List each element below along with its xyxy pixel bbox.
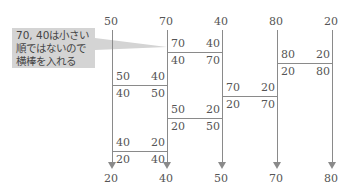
- vertical-line-2: [167, 30, 168, 163]
- swap-5-after-right: 50: [206, 121, 220, 133]
- bottom-value-2: 40: [159, 173, 173, 185]
- swap-2-after-left: 20: [281, 66, 295, 78]
- arrow-down-icon: [218, 162, 226, 169]
- top-value-1: 50: [104, 16, 118, 28]
- vertical-line-5: [332, 30, 333, 163]
- bottom-value-4: 70: [269, 173, 283, 185]
- swap-2-after-right: 80: [316, 66, 330, 78]
- top-value-4: 80: [269, 16, 283, 28]
- swap-2-before-left: 80: [281, 49, 295, 61]
- swap-5-before-right: 20: [206, 104, 220, 116]
- arrow-down-icon: [108, 162, 116, 169]
- swap-5-before-left: 50: [171, 104, 185, 116]
- vertical-line-4: [277, 30, 278, 163]
- swap-4-before-right: 20: [261, 82, 275, 94]
- top-value-2: 70: [159, 16, 173, 28]
- swap-2-before-right: 20: [316, 49, 330, 61]
- arrow-down-icon: [328, 162, 336, 169]
- swap-3-before-left: 50: [116, 71, 130, 83]
- bottom-value-5: 80: [324, 173, 338, 185]
- swap-3-after-right: 50: [151, 88, 165, 100]
- arrow-down-icon: [273, 162, 281, 169]
- callout-line-2: 順ではないので: [16, 42, 95, 55]
- swap-bar-6: [112, 151, 167, 152]
- swap-bar-4: [222, 96, 277, 97]
- top-value-5: 20: [324, 16, 338, 28]
- callout-box: 70, 40は小さい 順ではないので 横棒を入れる: [12, 28, 95, 68]
- swap-bar-5: [167, 118, 222, 119]
- swap-1-after-right: 70: [206, 55, 220, 67]
- swap-4-after-left: 20: [226, 99, 240, 111]
- bottom-value-3: 50: [214, 173, 228, 185]
- swap-3-after-left: 40: [116, 88, 130, 100]
- swap-1-before-right: 40: [206, 38, 220, 50]
- swap-1-before-left: 70: [171, 38, 185, 50]
- swap-6-before-left: 40: [116, 137, 130, 149]
- swap-bar-3: [112, 85, 167, 86]
- callout-line-1: 70, 40は小さい: [16, 29, 95, 42]
- top-value-3: 40: [214, 16, 228, 28]
- swap-bar-2: [277, 63, 332, 64]
- bottom-value-1: 20: [104, 173, 118, 185]
- swap-6-before-right: 20: [151, 137, 165, 149]
- vertical-line-1: [112, 30, 113, 163]
- swap-5-after-left: 20: [171, 121, 185, 133]
- swap-6-after-left: 20: [116, 154, 130, 166]
- swap-4-before-left: 70: [226, 82, 240, 94]
- swap-6-after-right: 40: [151, 154, 165, 166]
- callout-line-3: 横棒を入れる: [16, 55, 95, 68]
- swap-3-before-right: 40: [151, 71, 165, 83]
- swap-bar-1: [167, 52, 222, 53]
- swap-1-after-left: 40: [171, 55, 185, 67]
- swap-4-after-right: 70: [261, 99, 275, 111]
